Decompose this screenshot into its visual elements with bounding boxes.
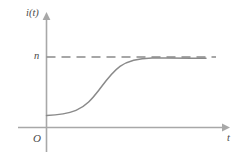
x-axis-label: t <box>227 133 230 144</box>
logistic-curve <box>47 58 207 115</box>
logistic-growth-figure: i(t) n O t <box>0 0 244 163</box>
y-axis-label: i(t) <box>26 8 39 19</box>
y-axis <box>43 12 51 152</box>
origin-label: O <box>33 133 41 144</box>
asymptote-tick-label: n <box>34 51 39 62</box>
y-axis-arrowhead <box>43 12 51 20</box>
x-axis-arrowhead <box>222 124 230 132</box>
x-axis <box>18 124 230 132</box>
